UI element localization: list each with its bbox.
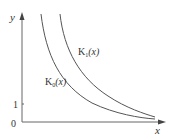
x-axis-label: x bbox=[154, 124, 160, 136]
y-tick-label-1: 1 bbox=[13, 99, 18, 110]
curve-k1 bbox=[60, 14, 155, 117]
curve-k0 bbox=[41, 14, 155, 119]
bessel-diagram: y x 0 1 K1(x) K0(x) bbox=[0, 0, 175, 138]
y-axis-arrow-icon bbox=[20, 12, 25, 20]
origin-label: 0 bbox=[11, 118, 16, 129]
curve-label-k0: K0(x) bbox=[45, 76, 67, 88]
y-axis-label: y bbox=[9, 11, 15, 23]
curve-label-k1: K1(x) bbox=[78, 46, 100, 58]
